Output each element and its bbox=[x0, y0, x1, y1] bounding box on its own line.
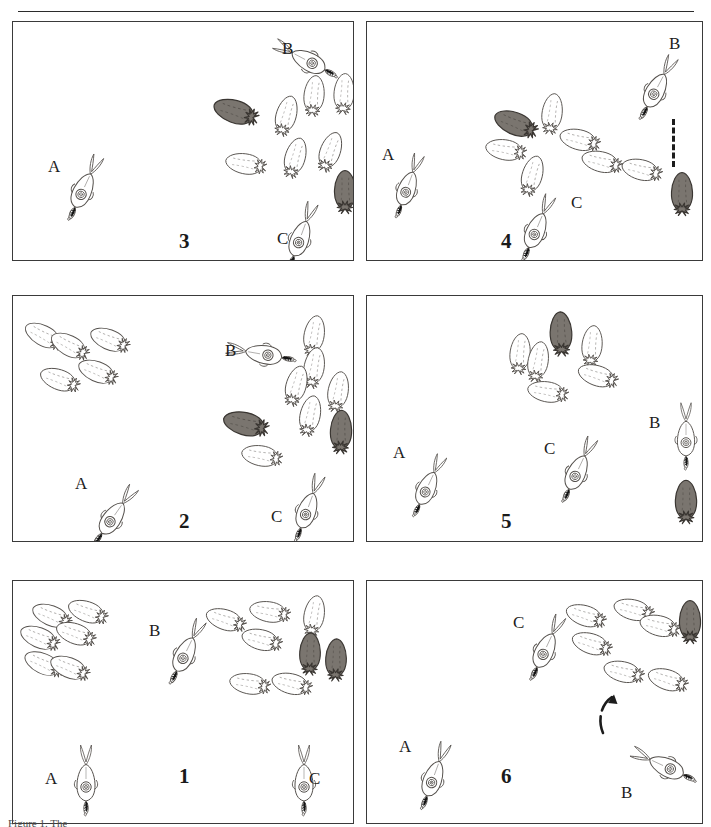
school-animal-pale bbox=[44, 647, 96, 688]
squid-label-a: A bbox=[48, 157, 60, 177]
panel-number: 4 bbox=[501, 229, 512, 254]
figure-caption: Figure 1. The bbox=[8, 817, 67, 827]
top-horizontal-rule bbox=[18, 11, 694, 12]
squid-label-a: A bbox=[393, 443, 405, 463]
squid-label-c: C bbox=[271, 507, 282, 527]
squid-label-c: C bbox=[277, 229, 288, 249]
tracked-squid-c bbox=[281, 468, 335, 542]
school-animal-dark bbox=[668, 170, 695, 218]
school-animal-pale bbox=[276, 132, 314, 183]
squid-label-c: C bbox=[571, 193, 582, 213]
squid-label-c: C bbox=[513, 613, 524, 633]
tracked-squid-a bbox=[407, 736, 461, 816]
squid-label-b: B bbox=[149, 621, 160, 641]
squid-label-a: A bbox=[45, 769, 57, 789]
tracked-squid-a bbox=[80, 477, 147, 542]
squid-label-a: A bbox=[399, 737, 411, 757]
squid-label-b: B bbox=[649, 413, 660, 433]
panel-number: 1 bbox=[179, 764, 190, 789]
panel-number: 6 bbox=[501, 764, 512, 789]
squid-label-b: B bbox=[282, 39, 293, 59]
panel-number: 3 bbox=[179, 229, 190, 254]
school-animal-dark bbox=[296, 630, 324, 678]
tracked-squid-b bbox=[626, 48, 687, 127]
squid-label-c: C bbox=[544, 439, 555, 459]
school-animal-pale bbox=[572, 357, 624, 396]
squid-label-b: B bbox=[621, 783, 632, 803]
school-animal-pale bbox=[221, 147, 271, 181]
school-animal-dark bbox=[676, 598, 703, 646]
panel-number: 2 bbox=[179, 509, 190, 534]
tracked-squid-a bbox=[71, 743, 101, 817]
school-animal-dark bbox=[322, 636, 350, 684]
school-animal-pale bbox=[237, 622, 288, 658]
squid-label-a: A bbox=[75, 474, 87, 494]
school-animal-pale bbox=[237, 439, 287, 473]
school-animal-dark bbox=[217, 404, 274, 445]
panel-number: 5 bbox=[501, 509, 512, 534]
panel-5: ABC5 bbox=[366, 295, 703, 542]
school-animal-pale bbox=[642, 661, 694, 700]
tracked-squid-c bbox=[509, 188, 566, 261]
strike-trajectory-line bbox=[672, 119, 675, 167]
squid-label-b: B bbox=[669, 34, 680, 54]
panel-2: ABC2 bbox=[12, 295, 354, 542]
squid-label-a: A bbox=[382, 145, 394, 165]
tracked-squid-c bbox=[549, 430, 607, 510]
school-animal-pale bbox=[523, 375, 573, 409]
school-animal-dark bbox=[207, 90, 265, 134]
school-animal-dark bbox=[331, 168, 354, 216]
panel-4: ABC4 bbox=[366, 21, 703, 261]
tracked-squid-a bbox=[55, 148, 113, 228]
panel-1: ABC1 bbox=[12, 580, 354, 824]
panel-3: ABC3 bbox=[12, 21, 354, 261]
school-animal-dark bbox=[326, 407, 354, 457]
squid-label-c: C bbox=[309, 769, 320, 789]
rotation-arrow-icon bbox=[597, 689, 645, 741]
tracked-squid-a bbox=[400, 448, 456, 524]
school-animal-dark bbox=[672, 478, 700, 527]
school-animal-pale bbox=[617, 152, 668, 188]
squid-label-b: B bbox=[225, 341, 236, 361]
panel-6: ABC6 bbox=[366, 580, 703, 824]
tracked-squid-b bbox=[156, 612, 215, 692]
tracked-squid-b bbox=[672, 401, 701, 471]
tracked-squid-b bbox=[624, 737, 703, 795]
